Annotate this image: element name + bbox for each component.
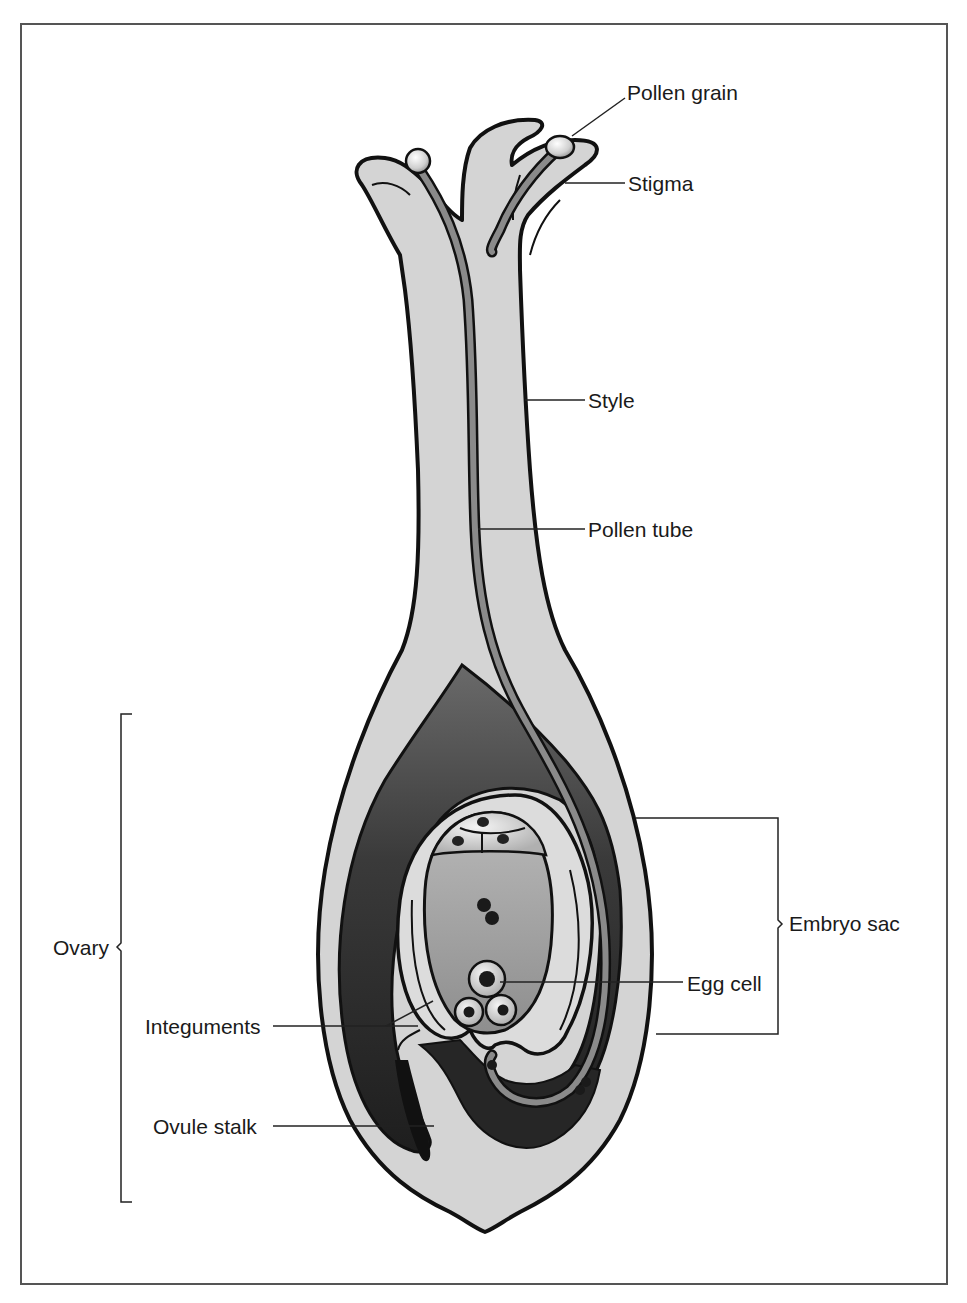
label-pollen-tube: Pollen tube xyxy=(588,519,693,540)
embryo-sac xyxy=(424,812,552,1033)
label-style: Style xyxy=(588,390,635,411)
label-embryo-sac: Embryo sac xyxy=(789,913,900,934)
label-ovary: Ovary xyxy=(53,937,109,958)
antipodal-nucleus xyxy=(497,834,509,844)
label-integuments: Integuments xyxy=(145,1016,261,1037)
pollen-grain xyxy=(546,136,574,158)
polar-nucleus xyxy=(485,911,499,925)
label-stigma: Stigma xyxy=(628,173,693,194)
sperm-nucleus xyxy=(575,1085,585,1095)
label-ovule-stalk: Ovule stalk xyxy=(153,1116,257,1137)
antipodal-nucleus xyxy=(477,817,489,827)
pollen-grain xyxy=(406,149,430,173)
antipodal-nucleus xyxy=(452,836,464,846)
carpel-diagram xyxy=(0,0,967,1303)
sperm-nucleus xyxy=(581,1077,591,1087)
label-pollen-grain: Pollen grain xyxy=(627,82,738,103)
sperm-nucleus xyxy=(487,1060,497,1070)
polar-nucleus xyxy=(477,898,491,912)
label-egg-cell: Egg cell xyxy=(687,973,762,994)
